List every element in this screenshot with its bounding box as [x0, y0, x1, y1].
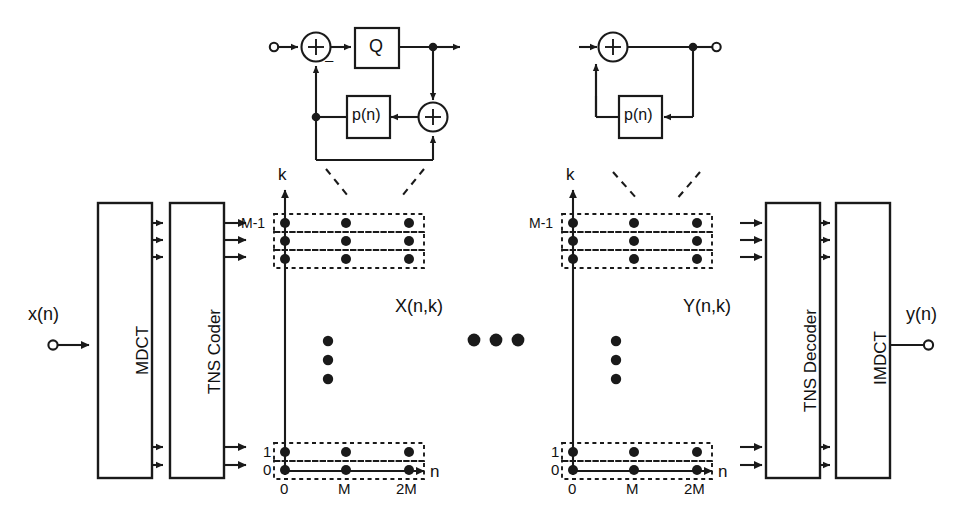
encoder-adder-minus-sign: – — [325, 52, 333, 67]
tns-coder-output-arrows — [224, 223, 246, 465]
decoder-detail-leader-lines — [613, 172, 700, 200]
mdct-block-label: MDCT — [134, 326, 151, 375]
grid-left-xtick-m: M — [338, 481, 351, 496]
tns-decoder-to-imdct-arrows — [820, 223, 830, 465]
grid-left-signal-label: X(n,k) — [395, 297, 443, 315]
grid-right-ytick-mminus1: M-1 — [529, 216, 553, 230]
grid-right-xtick-2m: 2M — [684, 481, 705, 496]
decoder-detail-output-terminal — [712, 43, 720, 51]
grid-right-row-groups — [562, 214, 712, 479]
quantizer-label: Q — [369, 37, 383, 55]
encoder-signal-wires — [48, 340, 89, 349]
input-label-xn: x(n) — [28, 305, 59, 323]
encoder-detail-leader-lines — [326, 169, 424, 196]
grid-right-xtick-0: 0 — [568, 481, 576, 496]
encoder-predictor-label: p(n) — [352, 107, 380, 123]
transmission-ellipsis-dots — [468, 334, 525, 347]
grid-left-y-axis-label: k — [278, 166, 287, 183]
grid-left-ytick-1: 1 — [263, 444, 271, 459]
decoder-input-arrows — [740, 223, 762, 465]
decoder-output-wire — [890, 340, 933, 349]
grid-right-dots — [568, 218, 702, 475]
tns-coder-block-label: TNS Coder — [206, 309, 223, 394]
grid-right-ytick-0: 0 — [551, 462, 559, 477]
diagram-vector-layer — [0, 0, 977, 519]
input-terminal-xn — [48, 340, 57, 349]
mdct-to-tns-arrows — [152, 223, 163, 465]
output-label-yn: y(n) — [906, 305, 937, 323]
grid-left-row-groups — [274, 214, 424, 479]
tns-decoder-block-label: TNS Decoder — [802, 309, 819, 412]
imdct-block-label: IMDCT — [872, 331, 889, 385]
encoder-detail-input-terminal — [270, 43, 278, 51]
grid-right-x-axis-label: n — [718, 463, 727, 480]
output-terminal-yn — [924, 340, 933, 349]
grid-left-x-axis-label: n — [430, 463, 439, 480]
encoder-detail-node-q-out — [429, 43, 438, 52]
grid-left-xtick-2m: 2M — [396, 481, 417, 496]
diagram-canvas: Q p(n) – p(n) MDCT TNS Coder TNS Decoder… — [0, 0, 977, 519]
decoder-predictor-label: p(n) — [624, 107, 652, 123]
grid-right-y-axis-label: k — [566, 166, 575, 183]
grid-left-ytick-0: 0 — [263, 462, 271, 477]
grid-left-dots — [280, 218, 414, 475]
decoder-detail-feedback-arrow — [596, 96, 613, 117]
grid-right-signal-label: Y(n,k) — [683, 297, 731, 315]
grid-right-ytick-1: 1 — [551, 444, 559, 459]
grid-left-xtick-0: 0 — [280, 481, 288, 496]
encoder-detail-wires — [270, 28, 460, 160]
grid-right-xtick-m: M — [626, 481, 639, 496]
grid-left-ytick-mminus1: M-1 — [241, 216, 265, 230]
